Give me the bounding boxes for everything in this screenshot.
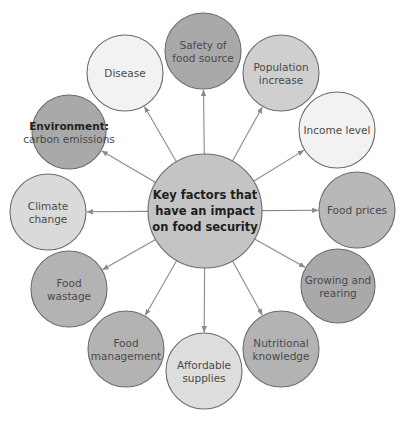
node-nutritional-knowledge: Nutritionalknowledge — [243, 311, 319, 387]
node-disease: Disease — [87, 35, 163, 111]
node-label: Affordable — [177, 359, 231, 371]
node-food-prices: Food prices — [319, 172, 395, 248]
node-label: Climate — [28, 200, 68, 212]
arrow-to-food-management — [145, 261, 176, 316]
node-climate-change: Climatechange — [10, 174, 86, 250]
node-label: rearing — [319, 287, 357, 299]
arrow-to-growing-and-rearing — [255, 239, 305, 267]
center-label: Key factors that — [153, 188, 258, 202]
node-label: carbon emissions — [23, 133, 115, 145]
node-label: knowledge — [253, 350, 310, 362]
node-label: wastage — [47, 290, 91, 302]
node-label: supplies — [182, 372, 225, 384]
node-label: Environment: — [29, 120, 109, 132]
node-label: Income level — [304, 124, 371, 136]
node-label: Food prices — [327, 204, 387, 216]
node-affordable-supplies: Affordablesupplies — [166, 333, 242, 409]
node-label: Nutritional — [253, 337, 308, 349]
node-food-management: Foodmanagement — [88, 311, 164, 387]
arrow-to-nutritional-knowledge — [233, 261, 263, 315]
node-label: food source — [172, 52, 233, 64]
node-income-level: Income level — [299, 92, 375, 168]
node-label: increase — [259, 74, 303, 86]
node-growing-and-rearing: Growing andrearing — [301, 249, 375, 323]
center-label: have an impact — [155, 204, 255, 218]
center-label: on food security — [152, 220, 258, 234]
node-label: Growing and — [305, 274, 372, 286]
arrow-to-safety-of-food-source — [204, 90, 205, 154]
arrow-to-population-increase — [233, 107, 263, 161]
node-label: Disease — [104, 67, 145, 79]
central-node: Key factors thathave an impacton food se… — [148, 154, 262, 268]
arrow-to-disease — [145, 107, 177, 162]
node-population-increase: Populationincrease — [243, 35, 319, 111]
node-label: Safety of — [179, 39, 226, 51]
node-label: Food — [56, 277, 81, 289]
food-security-mind-map: Safety offood sourcePopulationincreaseIn… — [0, 0, 408, 426]
node-label: Food — [113, 337, 138, 349]
arrow-to-environment-carbon-emissions — [102, 151, 156, 182]
arrow-to-income-level — [254, 150, 304, 181]
node-label: management — [91, 350, 161, 362]
arrow-to-food-wastage — [103, 239, 156, 269]
node-safety-of-food-source: Safety offood source — [165, 13, 241, 89]
node-label: Population — [253, 61, 308, 73]
node-food-wastage: Foodwastage — [31, 251, 107, 327]
node-label: change — [29, 213, 68, 225]
node-environment-carbon-emissions: Environment:carbon emissions — [23, 95, 115, 169]
